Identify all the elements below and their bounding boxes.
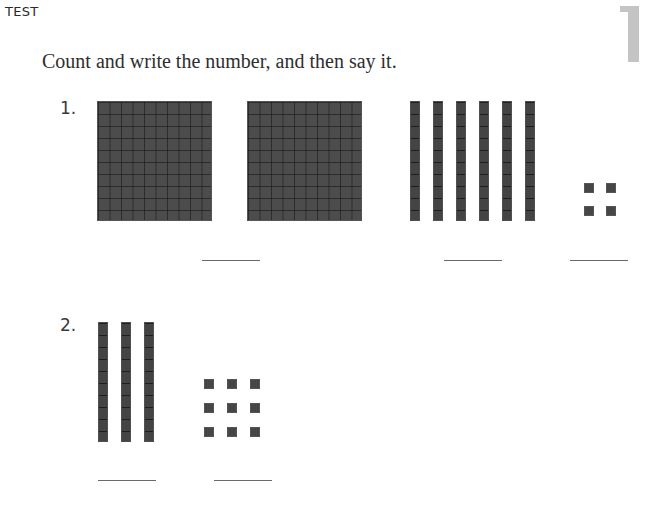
instructions: Count and write the number, and then say… <box>42 50 397 73</box>
unit-cube <box>204 379 214 389</box>
hundred-block <box>247 101 362 221</box>
ten-rod <box>98 322 108 442</box>
unit-cube <box>227 403 237 413</box>
unit-cube <box>204 403 214 413</box>
hundred-block <box>97 101 212 221</box>
ten-rod <box>144 322 154 442</box>
page-number-stem <box>628 6 639 62</box>
ten-rod <box>479 101 489 221</box>
ten-rod <box>121 322 131 442</box>
unit-cube <box>250 403 260 413</box>
unit-cube <box>606 206 616 216</box>
problem-1-number: 1. <box>60 98 76 118</box>
unit-cube <box>227 427 237 437</box>
unit-cube <box>204 427 214 437</box>
page-number-graphic <box>620 0 638 62</box>
ten-rod <box>502 101 512 221</box>
unit-cube <box>584 183 594 193</box>
answer-blank[interactable] <box>202 260 260 261</box>
unit-cube <box>606 183 616 193</box>
answer-blank[interactable] <box>444 260 502 261</box>
ten-rod <box>456 101 466 221</box>
unit-cube <box>584 206 594 216</box>
unit-cube <box>250 379 260 389</box>
test-label: TEST <box>5 4 39 19</box>
answer-blank[interactable] <box>98 480 156 481</box>
ten-rod <box>525 101 535 221</box>
answer-blank[interactable] <box>214 480 272 481</box>
ten-rod <box>410 101 420 221</box>
ten-rod <box>433 101 443 221</box>
unit-cube <box>250 427 260 437</box>
answer-blank[interactable] <box>570 260 628 261</box>
problem-2-number: 2. <box>60 315 76 335</box>
unit-cube <box>227 379 237 389</box>
